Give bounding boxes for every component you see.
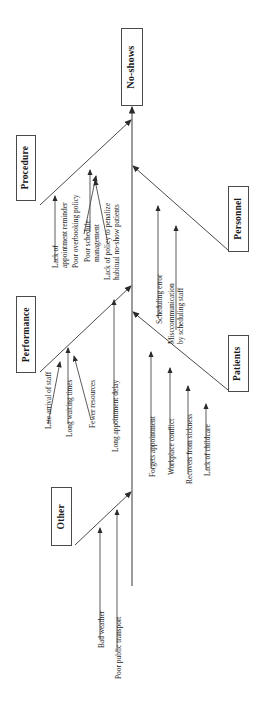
category-label-other: Other (57, 504, 67, 529)
category-box-other[interactable]: Other (51, 487, 72, 546)
cause-procedure-3-line2: management (93, 224, 102, 262)
cause-procedure-2: Poor overbooking policy (72, 195, 81, 269)
cause-patients-2: Workplace conflict (168, 419, 177, 475)
effect-box-no-shows[interactable]: No-shows (121, 28, 143, 106)
cause-performance-1: Late arrival of staff (45, 372, 54, 429)
category-box-performance[interactable]: Performance (16, 296, 36, 373)
cause-personnel-2-line2: by scheduling staff (177, 288, 186, 344)
bone-performance (40, 286, 131, 372)
bone-other (75, 492, 131, 545)
cause-procedure-4-line2: habitual no-show patients (113, 204, 122, 280)
fishbone-diagram: No-shows Procedure Performance Other Per… (0, 0, 256, 715)
cause-performance-4: Long appointment delay (112, 380, 121, 452)
bone-personnel (133, 166, 228, 250)
cause-procedure-1-line2: appointment reminder (61, 203, 70, 268)
category-label-patients: Patients (234, 346, 244, 380)
cause-other-1: Bad weather (98, 611, 107, 648)
category-box-patients[interactable]: Patients (228, 335, 249, 392)
cause-personnel-1: Scheduling error (156, 275, 165, 324)
bone-procedure (40, 120, 131, 205)
category-box-procedure[interactable]: Procedure (16, 135, 36, 201)
cause-other-2: Poor public transport (115, 617, 124, 679)
cause-patients-4: Lack of childcare (204, 424, 213, 476)
cause-performance-2: Long waiting times (66, 380, 75, 437)
cause-patients-3: Recovers from sickness (186, 414, 195, 484)
cause-patients-1: Forgets appointment (149, 416, 158, 477)
diagram-bones (0, 0, 256, 715)
category-box-personnel[interactable]: Personnel (228, 186, 249, 252)
category-label-procedure: Procedure (21, 146, 31, 190)
category-label-personnel: Personnel (234, 198, 244, 240)
effect-label: No-shows (127, 45, 138, 88)
cause-performance-3: Fewer resources (89, 380, 98, 428)
category-label-performance: Performance (21, 307, 31, 362)
